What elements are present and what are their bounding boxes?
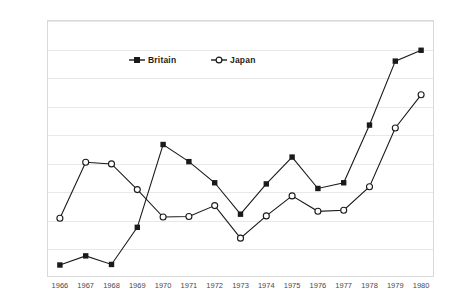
data-point-marker-circle [83, 159, 89, 165]
data-point-marker-circle [392, 125, 398, 131]
data-point-marker-circle [238, 235, 244, 241]
data-point-marker-square [264, 181, 269, 186]
data-point-marker-circle [186, 213, 192, 219]
data-point-marker-square [289, 154, 294, 159]
legend-label-britain: Britain [148, 55, 176, 65]
data-point-marker-square [238, 211, 243, 216]
chart-series-layer [0, 0, 452, 302]
data-point-marker-square [418, 48, 423, 53]
data-point-marker-circle [341, 207, 347, 213]
data-point-marker-circle [109, 161, 115, 167]
legend-item-britain: Britain [129, 55, 176, 65]
data-point-marker-square [186, 159, 191, 164]
data-point-marker-circle [212, 203, 218, 209]
data-point-marker-square [160, 142, 165, 147]
data-point-marker-square [393, 58, 398, 63]
data-point-marker-square [341, 180, 346, 185]
legend-marker-japan-icon [211, 55, 227, 65]
data-point-marker-square [315, 186, 320, 191]
data-point-marker-circle [160, 214, 166, 220]
data-point-marker-circle [367, 184, 373, 190]
legend-item-japan: Japan [211, 55, 256, 65]
legend-label-japan: Japan [230, 55, 256, 65]
data-point-marker-square [135, 225, 140, 230]
data-point-marker-square [212, 180, 217, 185]
data-point-marker-square [109, 262, 114, 267]
series-japan [57, 92, 424, 241]
data-point-marker-square [83, 253, 88, 258]
data-point-marker-square [367, 122, 372, 127]
data-point-marker-circle [289, 193, 295, 199]
data-point-marker-circle [418, 92, 424, 98]
data-point-marker-circle [134, 187, 140, 193]
legend-marker-britain-icon [129, 55, 145, 65]
data-point-marker-square [57, 262, 62, 267]
line-chart: 00.050.10.150.20.250.30.350.40.451966196… [0, 0, 452, 302]
series-line [60, 50, 421, 265]
data-point-marker-circle [315, 208, 321, 214]
data-point-marker-circle [263, 213, 269, 219]
data-point-marker-circle [57, 215, 63, 221]
